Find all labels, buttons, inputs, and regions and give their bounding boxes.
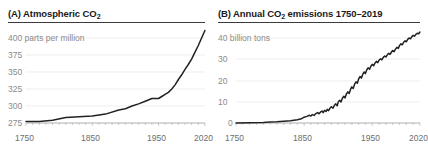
panel-b-plot: 40 billion tons 30 20 10 0 1750 1850 195… bbox=[210, 28, 425, 129]
panel-a-plot: 400 parts per million 375 350 325 300 27… bbox=[0, 28, 212, 129]
panel-a-title: (A) Atmospheric CO2 bbox=[8, 8, 100, 19]
panel-a-title-subscript: 2 bbox=[97, 13, 101, 20]
panel-b-title-suffix: emissions 1750–2019 bbox=[285, 8, 382, 19]
panel-b-title-subscript: 2 bbox=[281, 13, 285, 20]
panel-b-title-prefix: (B) Annual CO bbox=[218, 8, 281, 19]
panel-a-ytick-275: 275 bbox=[8, 119, 22, 128]
panel-b-svg bbox=[210, 28, 425, 129]
panel-a-x-minor-ticks bbox=[26, 123, 205, 126]
panel-b-title-rule bbox=[218, 22, 420, 23]
panel-a-xtick-1750: 1750 bbox=[15, 134, 34, 143]
panel-b-gridlines bbox=[236, 38, 420, 102]
panel-b-title: (B) Annual CO2 emissions 1750–2019 bbox=[218, 8, 382, 19]
panel-b-line-series bbox=[236, 32, 420, 123]
panel-b-x-minor-ticks bbox=[236, 123, 420, 126]
panel-b-ytick-10: 10 bbox=[218, 98, 227, 107]
panel-a-title-rule bbox=[8, 22, 205, 23]
panel-a-xtick-1850: 1850 bbox=[81, 134, 100, 143]
panel-b-ytick-20: 20 bbox=[218, 77, 227, 86]
panel-a-ytick-300: 300 bbox=[8, 102, 22, 111]
panel-annual-co2-emissions: (B) Annual CO2 emissions 1750–2019 bbox=[210, 0, 425, 157]
panel-a-gridlines bbox=[26, 38, 205, 106]
panel-b-xtick-1950: 1950 bbox=[361, 134, 380, 143]
panel-b-ytick-0: 0 bbox=[228, 119, 233, 128]
panel-a-ytick-400: 400 parts per million bbox=[8, 34, 85, 43]
panel-a-ytick-375: 375 bbox=[8, 51, 22, 60]
panel-atmospheric-co2: (A) Atmospheric CO2 bbox=[0, 0, 212, 157]
panel-b-xtick-1850: 1850 bbox=[293, 134, 312, 143]
panel-a-xtick-1950: 1950 bbox=[147, 134, 166, 143]
panel-a-ytick-325: 325 bbox=[8, 85, 22, 94]
panel-a-line-series bbox=[26, 31, 205, 122]
panel-b-ytick-30: 30 bbox=[218, 55, 227, 64]
panel-b-ytick-40: 40 billion tons bbox=[218, 34, 270, 43]
panel-a-svg bbox=[0, 28, 212, 129]
panel-b-xtick-1750: 1750 bbox=[225, 134, 244, 143]
panel-a-ytick-350: 350 bbox=[8, 68, 22, 77]
panel-a-title-prefix: (A) Atmospheric CO bbox=[8, 8, 97, 19]
panel-b-xtick-2020: 2020 bbox=[409, 134, 428, 143]
